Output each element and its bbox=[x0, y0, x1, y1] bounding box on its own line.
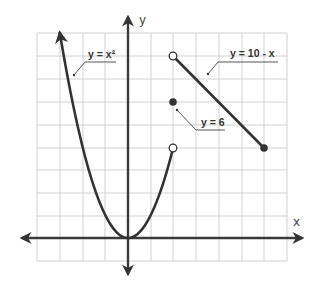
y-axis-label: y bbox=[139, 13, 146, 27]
open-circle-line-start bbox=[169, 52, 177, 60]
label-parabola: y = x² bbox=[73, 48, 116, 76]
function-graph: x y y = x² y = 10 - x y = 6 bbox=[0, 0, 316, 289]
open-circle-parabola-end bbox=[169, 144, 177, 152]
grid bbox=[37, 33, 287, 261]
svg-text:y = x²: y = x² bbox=[88, 48, 116, 60]
svg-text:y = 10 - x: y = 10 - x bbox=[230, 47, 275, 59]
closed-dot-line-end bbox=[260, 144, 268, 152]
closed-dot-y6 bbox=[169, 98, 177, 106]
svg-text:y = 6: y = 6 bbox=[201, 116, 225, 128]
parabola-curve bbox=[60, 33, 174, 238]
label-point: y = 6 bbox=[176, 109, 225, 130]
x-axis-label: x bbox=[293, 215, 300, 229]
